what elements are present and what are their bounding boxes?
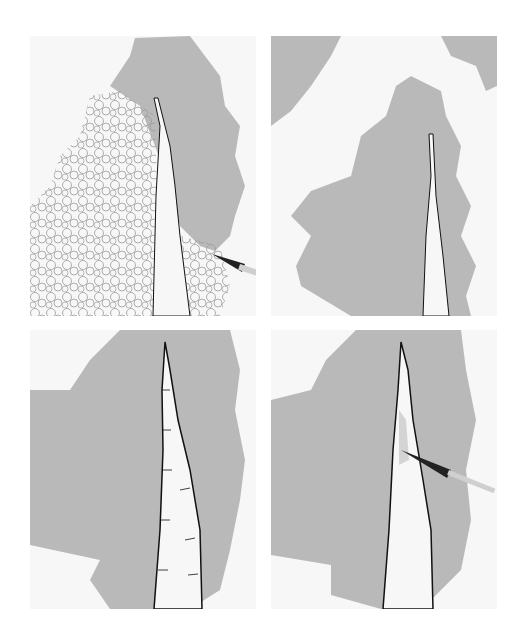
foliage-wash — [30, 330, 245, 609]
tree-trunk-illustration — [30, 330, 256, 609]
foliage-corner-left — [271, 36, 341, 126]
foliage-wash — [291, 76, 476, 316]
pencil-scribbles — [30, 91, 160, 316]
step-1-panel — [30, 36, 256, 316]
step-2-panel — [271, 36, 497, 316]
foliage-corner-right — [441, 36, 497, 91]
step-4-panel — [271, 330, 497, 609]
step-3-panel — [30, 330, 256, 609]
tree-shading-illustration — [271, 330, 497, 609]
tree-sketch-illustration — [30, 36, 256, 316]
tree-wash-illustration — [271, 36, 497, 316]
